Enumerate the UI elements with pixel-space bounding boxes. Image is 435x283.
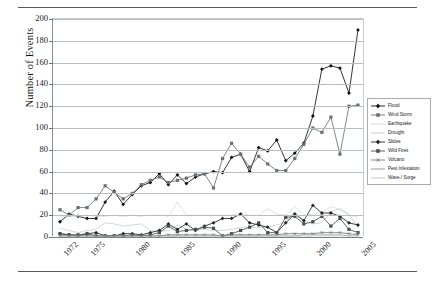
legend-label-drought: Drought — [388, 128, 404, 137]
chart-legend: FloodWind StormEarthquakeDroughtSlidesWi… — [367, 98, 431, 185]
y-tick-label-20: 20 — [22, 210, 48, 219]
y-tick-label-120: 120 — [22, 101, 48, 110]
legend-swatch-earthquake-icon — [370, 120, 386, 128]
legend-item-flood[interactable]: Flood — [370, 101, 429, 110]
plot-area — [52, 18, 364, 236]
legend-label-flood: Flood — [388, 101, 400, 110]
legend-swatch-wave-surge-icon — [370, 174, 386, 182]
gridline-140 — [53, 84, 363, 85]
legend-item-wind-storm[interactable]: Wind Storm — [370, 110, 429, 119]
x-tick-label-1975: 1975 — [89, 240, 107, 258]
x-tick-label-1990: 1990 — [224, 240, 242, 258]
y-tickmark-160 — [49, 63, 53, 64]
figure-container: Number of Events 02040608010012014016018… — [0, 0, 435, 283]
y-axis-tick-labels: 020406080100120140160180200 — [20, 18, 48, 236]
series-wind-storm — [58, 104, 359, 217]
legend-label-wind-storm: Wind Storm — [388, 110, 412, 119]
y-tickmark-80 — [49, 150, 53, 151]
legend-swatch-slides-icon — [370, 138, 386, 146]
x-tick-label-1995: 1995 — [269, 240, 287, 258]
x-tick-label-1972: 1972 — [62, 240, 80, 258]
legend-item-volcano[interactable]: Volcano — [370, 155, 429, 164]
legend-swatch-volcano-icon — [370, 156, 386, 164]
y-tick-label-200: 200 — [22, 14, 48, 23]
x-axis-tick-labels: 19721975198019851990199520002005 — [52, 238, 364, 272]
y-tick-label-80: 80 — [22, 145, 48, 154]
legend-label-earthquake: Earthquake — [388, 119, 412, 128]
y-tickmark-60 — [49, 172, 53, 173]
y-tickmark-20 — [49, 215, 53, 216]
y-tickmark-120 — [49, 106, 53, 107]
y-tickmark-40 — [49, 193, 53, 194]
legend-item-earthquake[interactable]: Earthquake — [370, 119, 429, 128]
y-tickmark-200 — [49, 19, 53, 20]
gridline-200 — [53, 19, 363, 20]
y-tick-label-60: 60 — [22, 167, 48, 176]
gridline-180 — [53, 41, 363, 42]
gridline-120 — [53, 106, 363, 107]
legend-item-wave-surge[interactable]: Wave / Surge — [370, 173, 429, 182]
gridline-40 — [53, 193, 363, 194]
y-tick-label-0: 0 — [22, 232, 48, 241]
gridline-160 — [53, 63, 363, 64]
legend-swatch-pest-infestation-icon — [370, 165, 386, 173]
y-tick-label-140: 140 — [22, 79, 48, 88]
chart-area: Number of Events 02040608010012014016018… — [0, 12, 435, 268]
y-tick-label-180: 180 — [22, 36, 48, 45]
figure-top-rule — [18, 7, 417, 8]
y-tickmark-140 — [49, 84, 53, 85]
gridline-80 — [53, 150, 363, 151]
x-tick-label-1985: 1985 — [179, 240, 197, 258]
x-tick-label-2005: 2005 — [360, 240, 378, 258]
legend-swatch-flood-icon — [370, 102, 386, 110]
legend-label-wild-fires: Wild Fires — [388, 146, 408, 155]
x-tick-label-2000: 2000 — [315, 240, 333, 258]
gridline-100 — [53, 128, 363, 129]
legend-label-volcano: Volcano — [388, 155, 404, 164]
legend-item-pest-infestation[interactable]: Pest Infestation — [370, 164, 429, 173]
y-tick-label-40: 40 — [22, 188, 48, 197]
legend-label-wave-surge: Wave / Surge — [388, 173, 416, 182]
y-tick-label-100: 100 — [22, 123, 48, 132]
legend-swatch-wind-storm-icon — [370, 111, 386, 119]
x-tick-label-1980: 1980 — [134, 240, 152, 258]
legend-label-pest-infestation: Pest Infestation — [388, 164, 420, 173]
legend-swatch-wild-fires-icon — [370, 147, 386, 155]
y-tick-label-160: 160 — [22, 58, 48, 67]
legend-item-slides[interactable]: Slides — [370, 137, 429, 146]
y-tickmark-180 — [49, 41, 53, 42]
legend-swatch-drought-icon — [370, 129, 386, 137]
gridline-60 — [53, 172, 363, 173]
legend-label-slides: Slides — [388, 137, 401, 146]
legend-item-drought[interactable]: Drought — [370, 128, 429, 137]
legend-item-wild-fires[interactable]: Wild Fires — [370, 146, 429, 155]
gridline-20 — [53, 215, 363, 216]
y-tickmark-100 — [49, 128, 53, 129]
